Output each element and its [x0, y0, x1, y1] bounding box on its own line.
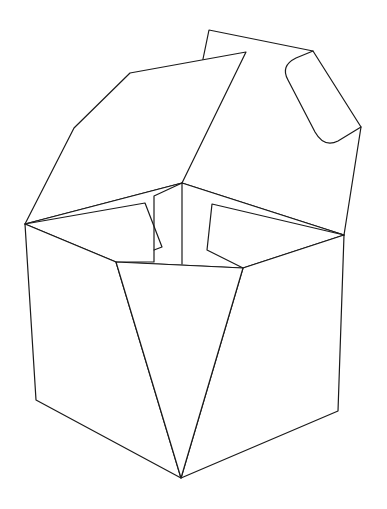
box-drawing: [0, 0, 387, 509]
box-diagram: [0, 0, 387, 509]
